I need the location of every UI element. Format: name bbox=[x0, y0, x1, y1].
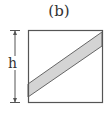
arrow-down-icon bbox=[13, 98, 17, 103]
arrow-up-icon bbox=[13, 31, 17, 36]
diagonal-band bbox=[28, 32, 102, 97]
height-label: h bbox=[8, 56, 17, 70]
